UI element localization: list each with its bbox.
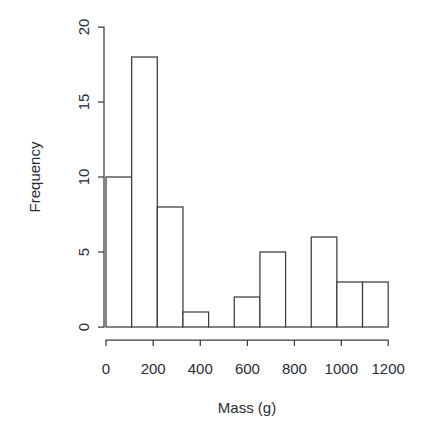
x-tick-label: 400	[188, 360, 213, 377]
x-tick-label: 1000	[325, 360, 358, 377]
histogram-bar[interactable]	[311, 237, 337, 327]
x-axis	[106, 340, 388, 346]
histogram-chart: 0 5 10 15 20 0 200 400 600 800 1000 1200…	[0, 0, 448, 438]
x-axis-title: Mass (g)	[218, 399, 276, 416]
x-tick-label: 600	[235, 360, 260, 377]
y-tick-label: 20	[75, 19, 92, 36]
chart-canvas: 0 5 10 15 20 0 200 400 600 800 1000 1200…	[0, 0, 448, 438]
bars-group	[106, 57, 388, 327]
histogram-bar[interactable]	[157, 207, 183, 327]
histogram-bar[interactable]	[363, 282, 389, 327]
histogram-bar[interactable]	[337, 282, 363, 327]
histogram-bar[interactable]	[234, 297, 260, 327]
y-tick-label: 5	[75, 248, 92, 256]
y-tick-label: 0	[75, 323, 92, 331]
y-tick-label: 15	[75, 94, 92, 111]
x-tick-label: 1200	[372, 360, 405, 377]
y-axis-title: Frequency	[26, 141, 43, 212]
x-tick-label: 200	[141, 360, 166, 377]
y-tick-label: 10	[75, 169, 92, 186]
y-tick-labels: 0 5 10 15 20	[75, 19, 92, 332]
x-tick-label: 0	[102, 360, 110, 377]
y-axis	[98, 27, 104, 327]
x-tick-label: 800	[282, 360, 307, 377]
histogram-bar[interactable]	[132, 57, 158, 327]
histogram-bar[interactable]	[106, 177, 132, 327]
histogram-bar[interactable]	[260, 252, 286, 327]
histogram-bar[interactable]	[183, 312, 209, 327]
x-tick-labels: 0 200 400 600 800 1000 1200	[102, 360, 405, 377]
